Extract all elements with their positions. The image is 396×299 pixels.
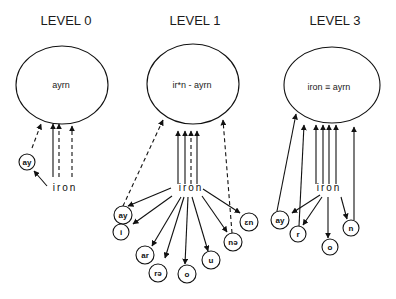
segment-node-label: ay bbox=[276, 216, 285, 225]
segment-node-label: i bbox=[120, 228, 122, 237]
solid-arrow bbox=[185, 197, 188, 264]
solid-arrow bbox=[34, 171, 47, 186]
level-2-group: LEVEL 3iron ≡ ayrnayroniron bbox=[271, 13, 380, 255]
solid-arrow bbox=[133, 196, 172, 224]
solid-arrow bbox=[192, 197, 208, 251]
solid-arrow bbox=[202, 196, 227, 232]
source-word: iron bbox=[53, 182, 78, 193]
segment-node-label: r bbox=[296, 230, 299, 239]
segment-node-label: o bbox=[185, 270, 190, 279]
dashed-arrow bbox=[223, 120, 232, 233]
segment-node-label: o bbox=[328, 243, 333, 252]
segment-node-label: u bbox=[209, 256, 214, 265]
level-0-group: LEVEL 0ayrnayiron bbox=[16, 13, 108, 193]
level-title: LEVEL 0 bbox=[41, 13, 92, 28]
segment-node-label: ay bbox=[119, 211, 128, 220]
segment-node-label: ar bbox=[141, 251, 149, 260]
level-title: LEVEL 1 bbox=[170, 13, 221, 28]
ellipse-label: iron ≡ ayrn bbox=[308, 82, 351, 92]
level-diagram: LEVEL 0ayrnayironLEVEL 1ir*n - ayrnayiar… bbox=[0, 0, 396, 299]
solid-arrow bbox=[277, 114, 296, 211]
solid-arrow bbox=[303, 197, 322, 225]
level-1-group: LEVEL 1ir*n - ayrnayiarrəounəɛniron bbox=[113, 13, 258, 283]
solid-arrow bbox=[341, 197, 347, 219]
solid-arrow bbox=[165, 197, 184, 258]
diagram-canvas: LEVEL 0ayrnayironLEVEL 1ir*n - ayrnayiar… bbox=[0, 0, 396, 299]
dashed-arrow bbox=[32, 124, 41, 148]
segment-node-label: rə bbox=[154, 269, 162, 278]
segment-node-label: ay bbox=[23, 158, 32, 167]
ellipse-label: ayrn bbox=[52, 80, 70, 90]
segment-node-label: n bbox=[349, 224, 354, 233]
source-word: iron bbox=[317, 182, 342, 193]
solid-arrow bbox=[128, 188, 171, 206]
dashed-arrow bbox=[123, 120, 163, 206]
solid-arrow bbox=[203, 189, 240, 213]
segment-node-label: ɛn bbox=[245, 218, 254, 227]
solid-arrow bbox=[292, 195, 320, 213]
segment-node-label: nə bbox=[228, 238, 238, 247]
level-title: LEVEL 3 bbox=[310, 13, 361, 28]
solid-arrow bbox=[299, 125, 304, 226]
ellipse-label: ir*n - ayrn bbox=[172, 80, 211, 90]
source-word: iron bbox=[179, 182, 204, 193]
